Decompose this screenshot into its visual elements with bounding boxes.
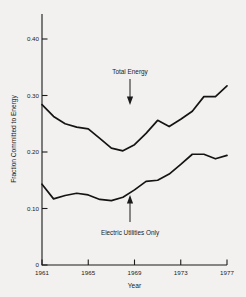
y-tick-label-4: 0.40 [27, 35, 40, 42]
y-axis-title: Fraction Committed to Energy [10, 95, 18, 183]
y-tick-label-2: 0.20 [27, 148, 40, 155]
up-arrow-icon [127, 195, 133, 204]
series-line-total-energy [42, 86, 227, 151]
y-axis-tick-labels: 0 0.10 0.20 0.30 0.40 [27, 35, 40, 268]
y-tick-label-3: 0.30 [27, 92, 40, 99]
y-tick-label-0: 0 [36, 261, 40, 268]
series-line-electric-utilities [42, 154, 227, 200]
annotation-total-energy-label: Total Energy [112, 68, 148, 76]
x-tick-label-1973: 1973 [174, 269, 188, 276]
x-axis-ticks [42, 260, 227, 266]
x-tick-label-1965: 1965 [81, 269, 95, 276]
x-tick-label-1977: 1977 [220, 269, 234, 276]
down-arrow-icon [127, 97, 133, 106]
x-tick-label-1961: 1961 [35, 269, 49, 276]
x-axis-title: Year [128, 282, 142, 289]
annotation-total-energy: Total Energy [112, 68, 148, 105]
chart-axes [42, 14, 227, 265]
x-tick-label-1969: 1969 [128, 269, 142, 276]
annotation-electric-utilities-label: Electric Utilities Only [101, 229, 160, 237]
annotation-electric-utilities: Electric Utilities Only [101, 195, 160, 237]
energy-fraction-line-chart: 0 0.10 0.20 0.30 0.40 1961 1965 1969 197… [0, 0, 246, 297]
y-tick-label-1: 0.10 [27, 205, 40, 212]
x-axis-tick-labels: 1961 1965 1969 1973 1977 [35, 269, 234, 276]
y-axis-ticks [42, 39, 48, 265]
chart-canvas: 0 0.10 0.20 0.30 0.40 1961 1965 1969 197… [0, 0, 246, 297]
